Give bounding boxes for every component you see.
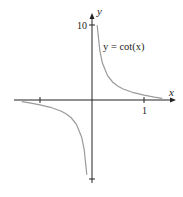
cot-plot: y x 10 1 y = cot(x)	[0, 0, 183, 197]
x-tick-label-1: 1	[142, 105, 147, 116]
curve-positive-branch	[97, 25, 162, 98]
x-axis-arrow-icon	[170, 98, 176, 103]
y-axis-arrow-icon	[90, 13, 95, 19]
function-label: y = cot(x)	[103, 41, 145, 53]
x-axis-label: x	[168, 86, 174, 98]
y-axis-label: y	[96, 5, 102, 17]
curve-negative-branch	[22, 102, 87, 175]
y-tick-label-10: 10	[77, 20, 87, 31]
